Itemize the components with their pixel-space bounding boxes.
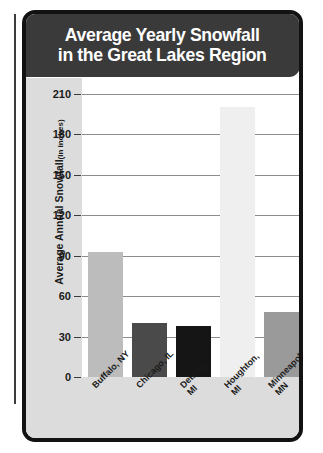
tick-mark-30: [74, 337, 81, 338]
chart-title: Average Yearly Snowfall in the Great Lak…: [54, 25, 270, 65]
y-tick-label-120: 120: [53, 209, 71, 221]
tick-mark-90: [74, 256, 81, 257]
tick-mark-60: [74, 296, 81, 297]
tick-mark-120: [74, 215, 81, 216]
gridline-210: [82, 94, 299, 95]
y-tick-label-90: 90: [59, 250, 71, 262]
x-axis-label-strip: [26, 376, 299, 438]
tick-mark-150: [74, 175, 81, 176]
tick-mark-210: [74, 94, 81, 95]
tick-mark-180: [74, 134, 81, 135]
plot-area: 0306090120150180210: [82, 94, 299, 377]
gridline-180: [82, 134, 299, 135]
gridline-120: [82, 215, 299, 216]
chart-title-line-1: Average Yearly Snowfall: [58, 25, 267, 45]
bar: [220, 107, 255, 377]
y-tick-label-0: 0: [65, 371, 71, 383]
y-tick-label-150: 150: [53, 169, 71, 181]
y-tick-label-180: 180: [53, 128, 71, 140]
chart-title-banner: Average Yearly Snowfall in the Great Lak…: [25, 13, 300, 77]
chart-card: Average Yearly Snowfall in the Great Lak…: [22, 10, 303, 442]
y-tick-label-60: 60: [59, 290, 71, 302]
y-tick-label-210: 210: [53, 88, 71, 100]
y-tick-label-30: 30: [59, 331, 71, 343]
chart-body: Average Annual Snowfall(in inches) 03060…: [26, 78, 299, 438]
chart-title-line-2: in the Great Lakes Region: [58, 45, 267, 65]
tick-mark-0: [74, 377, 81, 378]
gridline-150: [82, 175, 299, 176]
page-left-rule: [14, 14, 16, 404]
